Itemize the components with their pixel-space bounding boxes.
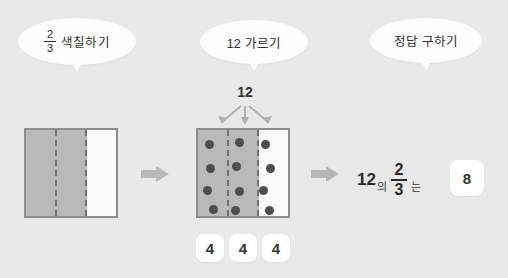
dot-group-model [196, 128, 290, 218]
counter-dot [231, 206, 240, 215]
partition-split-group: 12 [195, 84, 295, 124]
bubble-step-answer-label: 정답 구하기 [394, 31, 459, 50]
bubble-step-shade: 2 3 색칠하기 [18, 18, 136, 65]
equation-particle-is: 는 [410, 178, 422, 197]
dot-layer [198, 130, 288, 216]
bubble-tail [72, 63, 82, 72]
arrow-head [156, 166, 169, 182]
counter-dot [232, 162, 241, 171]
fraction-numerator: 2 [47, 29, 53, 41]
fraction-denominator: 3 [394, 181, 403, 198]
equation-particle-of: 의 [376, 178, 388, 197]
answer-result-chip: 8 [450, 160, 484, 196]
bubble-tail [249, 62, 259, 71]
fraction-denominator: 3 [47, 42, 53, 54]
counter-dot [261, 140, 270, 149]
arrow-shade-to-partition [141, 166, 169, 182]
counter-dot [205, 140, 214, 149]
counter-dot [235, 187, 244, 196]
counter-dot [209, 205, 218, 214]
fraction-bar-model-shading [24, 128, 118, 218]
counter-dot [206, 164, 215, 173]
counter-dot [265, 206, 274, 215]
arrow-head [326, 166, 339, 182]
bubble-step-shade-content: 2 3 색칠하기 [44, 29, 110, 54]
arrow-partition-to-answer [311, 166, 339, 182]
partition-total-label: 12 [195, 84, 295, 100]
model-cell-2 [57, 130, 88, 216]
bubble-fraction-two-thirds: 2 3 [44, 29, 56, 54]
counter-dot [235, 138, 244, 147]
group-value-text: 4 [206, 240, 214, 257]
group-value-chip: 4 [196, 234, 224, 262]
group-value-chip: 4 [229, 234, 257, 262]
counter-dot [259, 186, 268, 195]
group-value-text: 4 [272, 240, 280, 257]
bubble-step-answer-content: 정답 구하기 [394, 31, 459, 50]
equation-base: 12 [357, 170, 376, 190]
model-cell-3 [87, 130, 116, 216]
bubble-step-answer: 정답 구하기 [370, 18, 482, 63]
answer-equation: 12 의 2 3 는 [357, 163, 422, 197]
bubble-step-shade-label: 색칠하기 [61, 32, 110, 51]
fraction-numerator: 2 [394, 162, 403, 179]
bubble-step-partition-label: 12 가르기 [227, 33, 282, 52]
bubble-step-partition-content: 12 가르기 [227, 33, 282, 52]
group-value-chip: 4 [262, 234, 290, 262]
bubble-step-partition: 12 가르기 [200, 20, 308, 64]
answer-result-text: 8 [463, 170, 471, 187]
equation-fraction-two-thirds: 2 3 [391, 162, 407, 198]
bubble-tail [421, 61, 431, 70]
counter-dot [203, 186, 212, 195]
group-value-text: 4 [239, 240, 247, 257]
model-cell-1 [26, 130, 57, 216]
counter-dot [266, 164, 275, 173]
worksheet-canvas: 2 3 색칠하기 12 가르기 정답 구하기 12 [0, 0, 508, 278]
